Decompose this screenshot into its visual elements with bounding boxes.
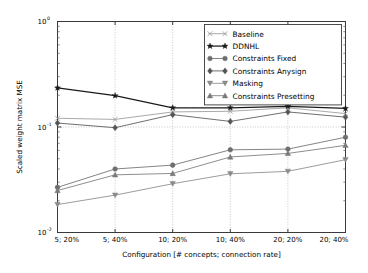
data-point-diamond <box>55 120 60 126</box>
y-tick-label: 10 <box>38 18 47 26</box>
data-point-circle <box>170 163 175 168</box>
legend-label: Constraints Presetting <box>233 92 315 101</box>
x-tick-label: 20; 40% <box>319 236 348 244</box>
y-tick-exponent: -2 <box>47 227 52 232</box>
x-tick-label: 10; 40% <box>216 236 245 244</box>
y-tick-exponent: 0 <box>47 16 50 21</box>
y-tick-label: 10 <box>38 124 47 132</box>
series-line <box>58 160 346 205</box>
series-line <box>58 137 346 187</box>
x-tick-labels: 5; 20%5; 40%10; 20%10; 40%20; 20%20; 40% <box>55 236 349 244</box>
x-axis-title: Configuration [# concepts; connection ra… <box>122 250 281 259</box>
legend-label: Constraints Anysign <box>233 67 307 76</box>
x-tick-label: 10; 20% <box>158 236 187 244</box>
legend-label: Constraints Fixed <box>233 54 297 63</box>
series-constraints-fixed <box>55 135 348 190</box>
legend-label: Masking <box>233 79 264 88</box>
y-tick-labels: 10010-110-2 <box>38 16 52 237</box>
series-line <box>58 145 346 190</box>
x-tick-label: 20; 20% <box>273 236 302 244</box>
legend[interactable]: BaselineDDNHLConstraints FixedConstraint… <box>205 25 342 105</box>
data-point-circle <box>208 56 213 61</box>
y-tick-exponent: -1 <box>47 122 52 127</box>
legend-label: DDNHL <box>233 42 260 51</box>
data-point-circle <box>113 167 118 172</box>
data-point-triangle-down <box>55 202 60 207</box>
series-constraints-anysign <box>55 109 348 131</box>
figure-container: 10010-110-25; 20%5; 40%10; 20%10; 40%20;… <box>0 0 368 273</box>
data-point-diamond <box>228 118 233 124</box>
legend-label: Baseline <box>233 30 265 39</box>
series-line <box>58 112 346 128</box>
data-point-circle <box>343 135 348 140</box>
data-point-circle <box>223 56 228 61</box>
data-point-circle <box>228 147 233 152</box>
y-axis-title: Scaled weight matrix MSE <box>15 80 24 174</box>
x-tick-label: 5; 40% <box>103 236 128 244</box>
chart-canvas: 10010-110-25; 20%5; 40%10; 20%10; 40%20;… <box>0 0 368 273</box>
y-tick-label: 10 <box>38 229 47 237</box>
x-tick-label: 5; 20% <box>55 236 80 244</box>
data-point-diamond <box>113 125 118 131</box>
